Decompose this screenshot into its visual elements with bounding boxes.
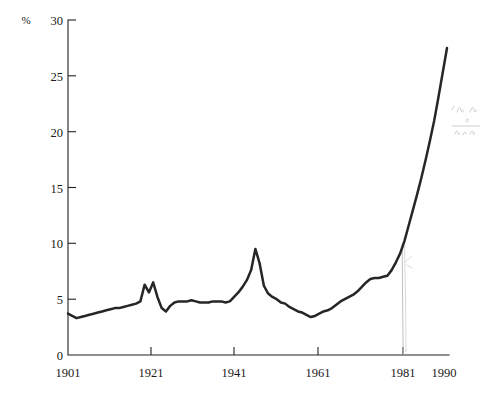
y-tick-label-10: 10 <box>51 237 64 251</box>
y-tick-label-0: 0 <box>57 349 63 363</box>
x-axis-ticks <box>151 347 403 355</box>
pencil-scribble-annotation <box>452 106 480 135</box>
x-tick-label-1901: 1901 <box>56 366 81 380</box>
y-axis-unit-label: % <box>21 14 30 26</box>
y-axis-tick-labels: 30 25 20 15 10 5 0 <box>51 14 64 363</box>
x-tick-label-1961: 1961 <box>306 366 331 380</box>
y-tick-label-25: 25 <box>51 70 64 84</box>
chart-axes <box>68 20 449 355</box>
x-tick-label-1981: 1981 <box>391 366 416 380</box>
line-chart-figure: % 30 25 20 15 10 5 0 1901 1921 1941 1961… <box>0 0 490 394</box>
x-axis-tick-labels: 1901 1921 1941 1961 1981 1990 <box>56 366 457 380</box>
x-tick-label-1941: 1941 <box>222 366 247 380</box>
y-tick-label-5: 5 <box>57 293 63 307</box>
pencil-tick-annotation <box>405 256 412 268</box>
data-series-line <box>68 48 447 318</box>
y-tick-label-30: 30 <box>51 14 64 28</box>
y-axis-ticks <box>68 20 76 299</box>
x-tick-label-1921: 1921 <box>139 366 164 380</box>
y-tick-label-15: 15 <box>51 182 64 196</box>
x-tick-label-1990: 1990 <box>432 366 457 380</box>
y-tick-label-20: 20 <box>51 126 64 140</box>
pencil-vertical-line-annotation <box>402 244 403 355</box>
